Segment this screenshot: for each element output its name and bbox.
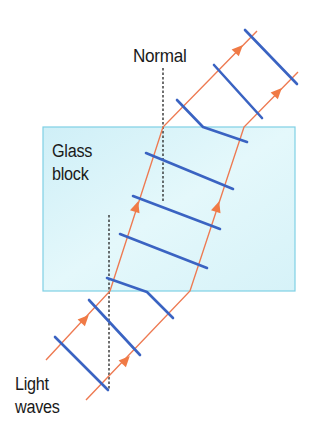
light-label-line2: waves bbox=[15, 396, 60, 419]
wavefront bbox=[55, 337, 108, 390]
wavefront bbox=[89, 300, 140, 355]
arrow-icon bbox=[119, 352, 134, 367]
wavefront bbox=[214, 65, 262, 118]
glass-label-line1: Glass bbox=[52, 140, 92, 163]
normal-label: Normal bbox=[133, 46, 186, 66]
light-label-line1: Light bbox=[15, 373, 60, 396]
glass-label-line2: block bbox=[52, 163, 92, 186]
wavefront bbox=[245, 30, 297, 84]
glass-block-label: Glass block bbox=[52, 140, 92, 186]
light-waves-label: Light waves bbox=[15, 373, 60, 419]
